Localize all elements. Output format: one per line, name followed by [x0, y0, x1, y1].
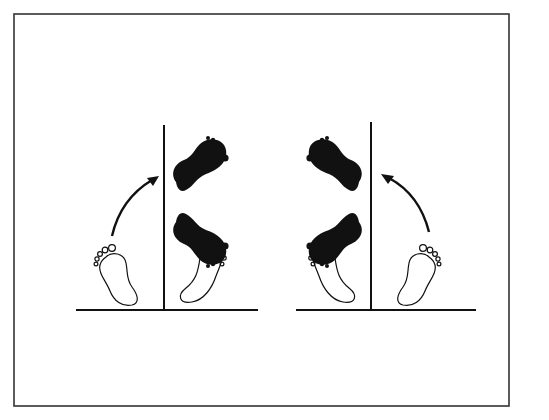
black-foot-upper-icon [173, 136, 228, 191]
curved-arrow-icon [112, 176, 159, 236]
outline-start-foot-icon [398, 245, 441, 306]
footprint-diagram [0, 0, 549, 420]
black-foot-lower-icon [306, 213, 361, 268]
curved-arrow-icon [381, 174, 429, 232]
right-panel [296, 122, 476, 310]
black-foot-upper-icon [306, 136, 361, 191]
black-foot-lower-icon [173, 213, 228, 268]
outline-start-foot-icon [94, 245, 137, 306]
left-panel [76, 125, 258, 310]
figure-frame [14, 14, 509, 406]
